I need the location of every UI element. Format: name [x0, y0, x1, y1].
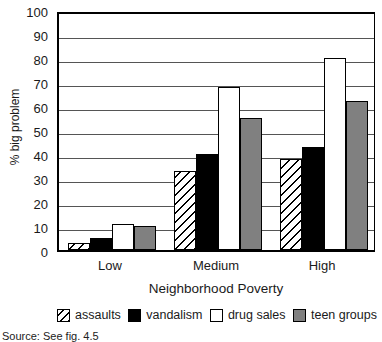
bar-assaults-medium[interactable]	[174, 171, 196, 250]
bar-assaults-low[interactable]	[68, 243, 90, 250]
legend-swatch-icon	[210, 309, 223, 322]
bar-vandalism-medium[interactable]	[196, 154, 218, 250]
bar-teen-groups-medium[interactable]	[240, 118, 262, 250]
bar-group	[280, 14, 368, 250]
legend-item-vandalism[interactable]: vandalism	[128, 308, 202, 322]
bar-teen-groups-high[interactable]	[346, 101, 368, 250]
y-axis-tick-label: 30	[0, 174, 48, 187]
bar-vandalism-high[interactable]	[302, 147, 324, 250]
legend-swatch-icon	[293, 309, 306, 322]
y-axis-tick-label: 100	[0, 6, 48, 19]
bar-drug-sales-high[interactable]	[324, 58, 346, 250]
x-axis-tick-label-low: Low	[60, 258, 160, 273]
y-axis-tick-label: 20	[0, 198, 48, 211]
y-axis-tick-label: 60	[0, 102, 48, 115]
y-axis-tick-label: 50	[0, 126, 48, 139]
legend-label: vandalism	[146, 308, 202, 322]
legend-swatch-icon	[57, 309, 70, 322]
y-axis-tick-label: 80	[0, 54, 48, 67]
y-axis-tick-label: 0	[0, 246, 48, 259]
legend-item-teen-groups[interactable]: teen groups	[293, 308, 377, 322]
x-axis-tick-label-medium: Medium	[166, 258, 266, 273]
y-axis-tick-label: 70	[0, 78, 48, 91]
bar-assaults-high[interactable]	[280, 159, 302, 250]
y-axis-tick-label: 40	[0, 150, 48, 163]
bar-drug-sales-medium[interactable]	[218, 87, 240, 250]
bar-teen-groups-low[interactable]	[134, 226, 156, 250]
bar-group	[68, 14, 156, 250]
bar-series-container	[59, 14, 374, 250]
legend-label: drug sales	[228, 308, 286, 322]
bar-chart-figure: % big problem 0102030405060708090100 Low…	[0, 0, 382, 342]
legend-item-drug-sales[interactable]: drug sales	[210, 308, 286, 322]
y-axis-tick-label: 90	[0, 30, 48, 43]
y-axis-tick-label: 10	[0, 222, 48, 235]
legend-label: teen groups	[311, 308, 377, 322]
legend-swatch-icon	[128, 309, 141, 322]
legend-label: assaults	[75, 308, 121, 322]
source-note: Source: See fig. 4.5	[2, 330, 99, 342]
chart-legend: assaultsvandalismdrug salesteen groups	[57, 308, 377, 322]
x-axis-tick-label-high: High	[272, 258, 372, 273]
bar-drug-sales-low[interactable]	[112, 224, 134, 250]
plot-area	[57, 12, 375, 252]
legend-item-assaults[interactable]: assaults	[57, 308, 121, 322]
bar-group	[174, 14, 262, 250]
bar-vandalism-low[interactable]	[90, 238, 112, 250]
x-axis-title: Neighborhood Poverty	[57, 281, 375, 296]
